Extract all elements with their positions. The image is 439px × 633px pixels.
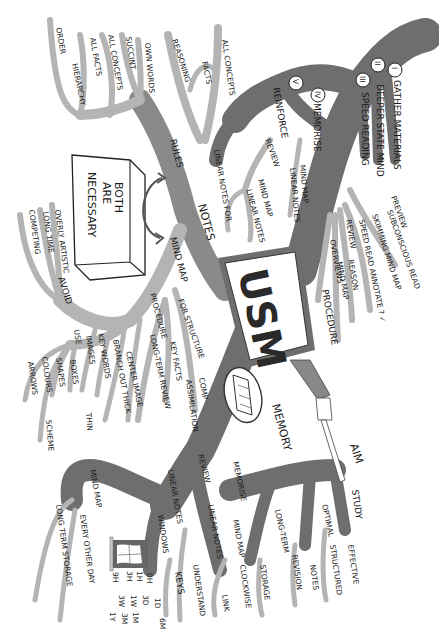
linear-notes-for-label: LINEAR NOTES FOR	[212, 149, 234, 222]
schedule-0h: 0H	[145, 573, 154, 583]
study-longterm-trunk	[250, 485, 270, 560]
memorise-stem	[290, 95, 330, 130]
aim-label: AIM	[347, 442, 366, 465]
study-optimal-trunk	[305, 475, 310, 545]
order-label: ORDER	[54, 27, 68, 55]
schedule-1h: 1H	[135, 571, 144, 581]
assimilation-label: ASSIMILATION	[184, 379, 200, 433]
structured-branch	[323, 530, 326, 600]
effective-label: EFFECTIVE	[346, 544, 361, 585]
notes-study-label: NOTES	[308, 564, 321, 591]
deeper-state-mind-label: DEEPER STATE MIND	[375, 84, 385, 177]
step-4-num: IV	[313, 91, 322, 99]
schedule-9h: 9H	[111, 572, 120, 582]
long-term-study-label: LONG-TERM	[273, 509, 291, 554]
review-mindmap-trunk	[72, 470, 170, 500]
schedule-1w: 1W	[129, 595, 138, 608]
reinforce-review-label: REVIEW	[263, 138, 282, 169]
double-arrow-icon	[143, 178, 162, 238]
for-structure-label: FOR STRUCTURE	[176, 298, 206, 361]
box-label-2: ARE	[100, 182, 113, 204]
reasoning-branch	[168, 35, 200, 140]
study-label: STUDY	[350, 489, 364, 520]
structured-label: STRUCTURED	[328, 544, 344, 596]
all-concepts-linear-label: ALL CONCEPTS	[220, 39, 237, 96]
step-1-num: I	[390, 67, 399, 69]
box-label-3: NECESSARY	[85, 172, 98, 237]
comp-label: COMP	[197, 377, 210, 401]
link-label: LINK	[220, 594, 231, 613]
step-2-num: II	[373, 61, 382, 65]
schedule-3h: 3H	[125, 571, 134, 581]
schedule-1m: 1M	[131, 612, 140, 623]
all-facts-label: ALL FACTS	[88, 37, 104, 77]
keys-branch	[165, 560, 170, 615]
schedule-1y: 1Y	[108, 612, 117, 622]
own-words-branch	[138, 40, 141, 100]
schedule-3m: 3M	[120, 613, 129, 624]
scheme-label: SCHEME	[44, 419, 56, 452]
memory-label: MEMORY	[269, 402, 294, 452]
understand-label: UNDERSTAND	[191, 564, 207, 617]
speed-reading-label: SPEED READING	[360, 92, 370, 166]
step-3-num: III	[358, 76, 367, 83]
schedule-3w: 3W	[117, 595, 126, 608]
thin-label: THIN	[84, 411, 95, 431]
facts-label: FACTS	[200, 61, 214, 86]
memorise-label: MEMORISE	[312, 103, 322, 152]
gather-materials-label: GATHER MATERIALS	[392, 80, 402, 170]
memorise-mindmap-memory-label: MIND MAP	[231, 519, 247, 559]
mind-map-svg: USM BOTH ARE NECESSARY I II III IV V GAT…	[0, 0, 439, 633]
both-are-necessary-box	[72, 155, 145, 280]
window-icon	[110, 537, 148, 571]
schedule-3d: 3D	[141, 595, 150, 606]
schedule-1d: 1D	[153, 598, 162, 609]
colours-label: COLOURS	[40, 356, 54, 394]
keys-label: KEYS	[173, 571, 186, 595]
clockwise-label: CLOCKWISE	[238, 564, 253, 609]
mind-map-canvas: USM BOTH ARE NECESSARY I II III IV V GAT…	[0, 0, 439, 633]
step-5-num: V	[291, 79, 300, 85]
own-words-label: OWN WORDS	[143, 42, 156, 93]
schedule-6m: 6M	[158, 618, 167, 629]
every-other-day-label: EVERY OTHER DAY	[78, 514, 97, 585]
